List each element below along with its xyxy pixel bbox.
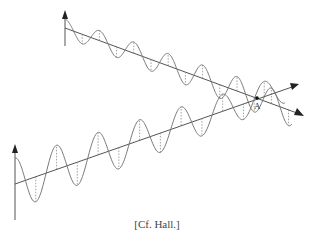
point-a-label: A xyxy=(254,101,261,111)
lower-wave-guides xyxy=(36,81,264,201)
upper-vertical-arrow-icon xyxy=(62,10,68,19)
upper-wave-guides xyxy=(82,31,288,126)
lower-propagation-axis xyxy=(15,87,292,184)
lower-propagation-arrow-icon xyxy=(290,83,299,90)
upper-propagation-arrow-icon xyxy=(294,108,304,116)
figure-caption: [Cf. Hall.] xyxy=(0,218,314,230)
upper-wave-group xyxy=(62,10,304,126)
upper-propagation-axis xyxy=(65,28,297,113)
intersection-point-a xyxy=(255,96,259,100)
lower-wave-curve xyxy=(15,81,285,202)
wave-diagram: A xyxy=(0,0,314,241)
lower-vertical-arrow-icon xyxy=(12,144,18,153)
